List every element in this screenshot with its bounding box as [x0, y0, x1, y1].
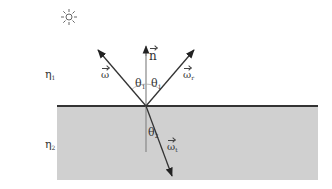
incident-symbol: ω [101, 70, 109, 80]
theta2-symbol: θ [148, 126, 155, 139]
theta1-left-label: θ1 [135, 78, 145, 90]
transmitted-sub: t [175, 146, 177, 153]
reflected-sub: r [191, 74, 194, 81]
theta1-right-sub: 1 [158, 83, 162, 90]
theta1-right-symbol: θ [151, 77, 158, 90]
theta1-right-label: θ1 [151, 78, 161, 90]
medium-2-region [57, 106, 318, 180]
eta1-symbol: η [45, 68, 52, 81]
eta2-symbol: η [45, 138, 52, 151]
theta1-left-symbol: θ [135, 77, 142, 90]
normal-label: n [149, 50, 157, 62]
eta1-sub: 1 [52, 74, 56, 81]
theta2-sub: 2 [155, 132, 159, 139]
eta1-label: η1 [45, 69, 55, 81]
reflected-label: ωr [183, 70, 194, 81]
eta2-label: η2 [45, 139, 55, 151]
transmitted-symbol: ω [167, 142, 175, 152]
reflected-symbol: ω [183, 70, 191, 80]
diagram-canvas [0, 0, 332, 189]
normal-symbol: n [149, 50, 157, 62]
sun-icon [61, 9, 77, 25]
transmitted-label: ωt [167, 142, 178, 153]
incident-label: ω [101, 70, 109, 80]
eta2-sub: 2 [52, 144, 56, 151]
theta2-label: θ2 [148, 127, 158, 139]
theta1-left-sub: 1 [142, 83, 146, 90]
